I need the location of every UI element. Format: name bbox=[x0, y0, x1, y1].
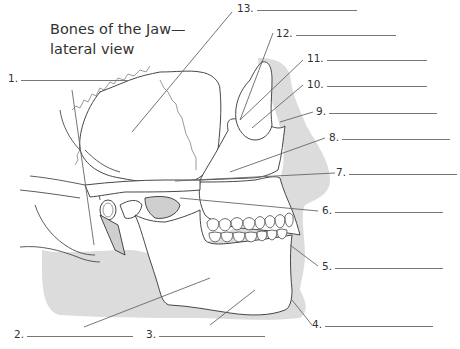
label-10[interactable]: 10. bbox=[307, 78, 427, 90]
label-5-blank[interactable] bbox=[335, 267, 443, 269]
label-9[interactable]: 9. bbox=[316, 105, 437, 117]
label-7-number: 7. bbox=[336, 166, 346, 178]
label-9-blank[interactable] bbox=[329, 112, 437, 114]
label-10-blank[interactable] bbox=[327, 85, 427, 87]
label-13-blank[interactable] bbox=[257, 9, 357, 11]
label-4-number: 4. bbox=[312, 318, 322, 330]
label-3-blank[interactable] bbox=[159, 335, 265, 337]
label-6[interactable]: 6. bbox=[322, 204, 443, 216]
label-8-number: 8. bbox=[329, 131, 339, 143]
label-5-number: 5. bbox=[322, 260, 332, 272]
label-3-number: 3. bbox=[146, 328, 156, 340]
label-10-number: 10. bbox=[307, 78, 324, 90]
label-2[interactable]: 2. bbox=[14, 328, 133, 340]
label-7[interactable]: 7. bbox=[336, 166, 457, 178]
label-11[interactable]: 11. bbox=[307, 52, 427, 64]
label-6-blank[interactable] bbox=[335, 211, 443, 213]
label-8-blank[interactable] bbox=[342, 138, 450, 140]
label-11-blank[interactable] bbox=[327, 59, 427, 61]
label-5[interactable]: 5. bbox=[322, 260, 443, 272]
label-12-number: 12. bbox=[276, 27, 293, 39]
label-4[interactable]: 4. bbox=[312, 318, 433, 330]
label-13-number: 13. bbox=[237, 2, 254, 14]
label-2-number: 2. bbox=[14, 328, 24, 340]
label-11-number: 11. bbox=[307, 52, 324, 64]
label-3[interactable]: 3. bbox=[146, 328, 265, 340]
label-1[interactable]: 1. bbox=[8, 72, 129, 84]
label-6-number: 6. bbox=[322, 204, 332, 216]
label-8[interactable]: 8. bbox=[329, 131, 450, 143]
label-12-blank[interactable] bbox=[296, 34, 396, 36]
label-1-number: 1. bbox=[8, 72, 18, 84]
label-1-blank[interactable] bbox=[21, 79, 129, 81]
label-7-blank[interactable] bbox=[349, 173, 457, 175]
label-4-blank[interactable] bbox=[325, 325, 433, 327]
label-12[interactable]: 12. bbox=[276, 27, 396, 39]
label-2-blank[interactable] bbox=[27, 335, 133, 337]
zygomatic-arch bbox=[85, 180, 200, 197]
label-13[interactable]: 13. bbox=[237, 2, 357, 14]
label-9-number: 9. bbox=[316, 105, 326, 117]
